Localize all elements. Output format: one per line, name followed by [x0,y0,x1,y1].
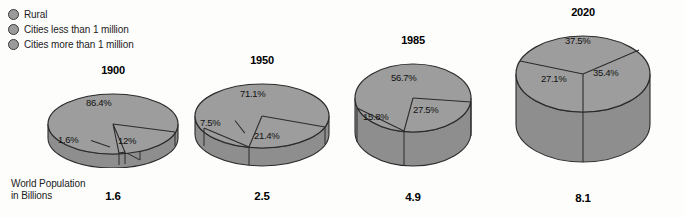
pie-1950-label-small-cities: 7.5% [200,117,220,128]
legend-swatch-rural-icon [8,9,19,20]
legend-swatch-cities-less-icon [8,24,19,35]
pie-chart-2020: 2020 37.5% 27.1% 35.4% 8.1 [510,6,656,168]
population-pie-chart-figure: Rural Cities less than 1 million Cities … [0,0,684,218]
pie-1900-label-large-cities: 12% [118,135,136,146]
pie-population-1985: 4.9 [352,191,474,203]
pie-2020-label-rural: 37.5% [565,35,590,46]
pie-chart-1900: 1900 86.4% 1.6% 12% 1.6 [45,64,181,164]
legend-swatch-cities-more-icon [8,39,19,50]
pie-1950-label-large-cities: 21.4% [254,130,279,141]
legend-label-rural: Rural [24,9,47,20]
legend-item-rural: Rural [8,8,188,21]
pie-title-1900: 1900 [45,64,181,76]
pie-title-2020: 2020 [510,6,656,18]
pie-1900-label-small-cities: 1.6% [58,134,78,145]
pie-population-1950: 2.5 [192,190,332,202]
pie-chart-1950: 1950 71.1% 7.5% 21.4% 2.5 [192,54,332,166]
pie-2020-label-large-cities: 35.4% [593,67,618,78]
pie-title-1950: 1950 [192,54,332,66]
pie-1950-label-rural: 71.1% [240,88,265,99]
pie-population-1900: 1.6 [45,190,181,202]
legend-label-cities-less-than-1-million: Cities less than 1 million [24,24,129,35]
pie-svg-1900 [45,80,181,168]
pie-1985-label-small-cities: 15.8% [363,111,388,122]
pie-1985-label-rural: 56.7% [391,72,416,83]
pie-1900-label-rural: 86.4% [86,97,111,108]
pie-1985-label-large-cities: 27.5% [413,104,438,115]
pie-2020-label-small-cities: 27.1% [541,73,566,84]
legend-label-cities-more-than-1-million: Cities more than 1 million [24,39,134,50]
pie-title-1985: 1985 [352,34,474,46]
legend: Rural Cities less than 1 million Cities … [8,8,188,53]
legend-item-cities-less-than-1-million: Cities less than 1 million [8,23,188,36]
pie-population-2020: 8.1 [510,192,656,204]
pie-chart-1985: 1985 56.7% 15.8% 27.5% 4.9 [352,34,474,166]
legend-item-cities-more-than-1-million: Cities more than 1 million [8,38,188,51]
axis-caption-line1: World Population [11,178,85,190]
